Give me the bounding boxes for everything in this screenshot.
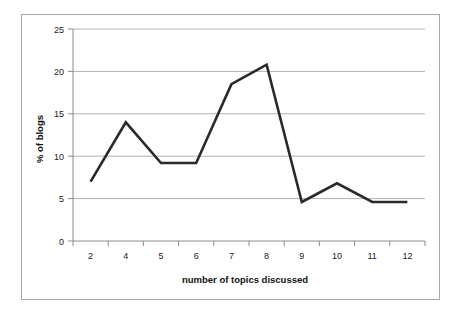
line-chart: 25 20 15 10 5 0 2 4 5 6 7 8 9 10 11 12 n… bbox=[0, 0, 458, 318]
y-tick-label: 0 bbox=[59, 237, 64, 247]
x-tick-label: 6 bbox=[194, 251, 199, 261]
gridlines bbox=[73, 29, 425, 199]
y-tick-label: 25 bbox=[54, 25, 64, 35]
x-tick-label: 8 bbox=[264, 251, 269, 261]
x-tick-label: 10 bbox=[332, 251, 342, 261]
x-tick-label: 11 bbox=[368, 251, 377, 261]
x-tick-label: 5 bbox=[158, 251, 163, 261]
y-tick-labels: 25 20 15 10 5 0 bbox=[54, 25, 64, 247]
x-tick-marks bbox=[73, 241, 425, 246]
x-tick-labels: 2 4 5 6 7 8 9 10 11 12 bbox=[88, 251, 412, 261]
x-tick-label: 4 bbox=[123, 251, 128, 261]
x-tick-label: 9 bbox=[299, 251, 304, 261]
y-tick-marks bbox=[68, 29, 73, 241]
x-axis-title: number of topics discussed bbox=[182, 274, 308, 285]
x-tick-label: 7 bbox=[229, 251, 234, 261]
y-tick-label: 10 bbox=[54, 152, 64, 162]
x-tick-label: 2 bbox=[88, 251, 93, 261]
y-tick-label: 20 bbox=[54, 67, 64, 77]
chart-figure: 25 20 15 10 5 0 2 4 5 6 7 8 9 10 11 12 n… bbox=[0, 0, 458, 318]
y-tick-label: 15 bbox=[54, 109, 64, 119]
data-series-line bbox=[91, 65, 408, 202]
x-tick-label: 12 bbox=[402, 251, 412, 261]
y-tick-label: 5 bbox=[59, 194, 64, 204]
y-axis-title: % of blogs bbox=[34, 115, 45, 163]
